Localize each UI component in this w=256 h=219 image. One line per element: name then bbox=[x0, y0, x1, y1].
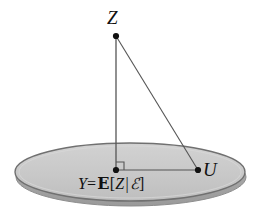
sigma-algebra-symbol: ℰ bbox=[130, 175, 139, 193]
projection-diagram: Z U Y=E[Z|ℰ] bbox=[0, 0, 256, 219]
point-label-u: U bbox=[203, 160, 217, 179]
expectation-operator: E bbox=[97, 174, 109, 193]
point-y-dot bbox=[113, 167, 119, 173]
bracket-close: ] bbox=[139, 175, 145, 192]
equals-sign: = bbox=[87, 175, 96, 192]
point-label-y: Y=E[Z|ℰ] bbox=[78, 176, 145, 192]
point-label-z: Z bbox=[107, 8, 118, 27]
point-z-dot bbox=[113, 33, 119, 39]
point-u-dot bbox=[195, 167, 201, 173]
y-variable: Y bbox=[78, 175, 87, 192]
